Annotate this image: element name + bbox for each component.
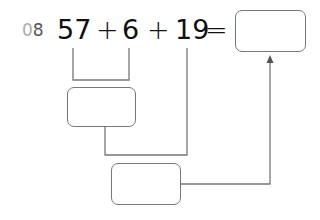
connector-lines xyxy=(0,0,320,220)
connector-19 xyxy=(105,48,187,155)
connector-to-answer xyxy=(181,62,270,184)
arrow-up-icon xyxy=(267,55,274,63)
bracket-57-6 xyxy=(73,48,129,80)
